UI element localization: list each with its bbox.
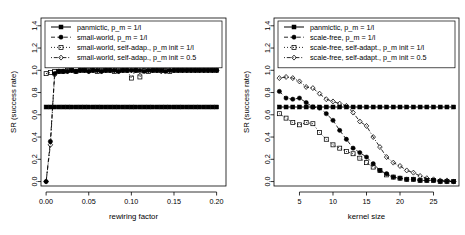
x-axis: 0.000.050.100.150.20rewiring factor <box>39 192 224 221</box>
y-axis-title: SR (success rate) <box>9 71 18 133</box>
y-axis-tick-label: 1.4 <box>264 21 273 31</box>
data-point-marker <box>277 105 281 109</box>
legend-label: small-world, self-adap., p_m init = 1/l <box>77 43 194 52</box>
data-point-marker <box>185 105 189 109</box>
data-point-marker <box>351 146 355 150</box>
data-point-marker <box>57 105 61 109</box>
y-axis-tick-label: 0.8 <box>31 88 40 98</box>
chart-svg: 0.00.20.40.60.81.01.21.4SR (success rate… <box>233 0 465 235</box>
series-1 <box>277 89 456 183</box>
data-point-marker <box>117 105 121 109</box>
y-axis-tick-label: 0.6 <box>31 110 40 120</box>
data-point-marker <box>398 105 402 109</box>
data-point-marker <box>129 105 133 109</box>
data-point-marker <box>125 105 129 109</box>
data-point-marker <box>317 106 321 110</box>
data-point-marker <box>365 105 369 109</box>
legend-label: small-world, self-adap., p_m init = 0.5 <box>77 53 196 62</box>
x-axis: 510152025kernel size <box>297 192 437 221</box>
data-point-marker <box>398 163 403 168</box>
series-line <box>46 70 217 181</box>
x-axis-tick-label: 25 <box>430 197 438 206</box>
y-axis: 0.00.20.40.60.81.01.21.4SR (success rate… <box>9 21 42 187</box>
data-point-marker <box>44 72 48 76</box>
x-axis-tick-label: 20 <box>396 197 404 206</box>
x-axis-tick-label: 5 <box>297 197 301 206</box>
data-point-marker <box>87 105 91 109</box>
y-axis-title: SR (success rate) <box>242 71 251 133</box>
data-point-marker <box>48 105 52 109</box>
data-point-marker <box>297 105 301 109</box>
data-point-marker <box>331 105 335 109</box>
data-point-marker <box>311 122 315 126</box>
y-axis-tick-label: 0.4 <box>31 132 40 142</box>
data-point-marker <box>193 105 197 109</box>
data-point-marker <box>108 105 112 109</box>
data-point-marker <box>358 105 362 109</box>
data-point-marker <box>364 155 368 159</box>
y-axis-tick-label: 0.2 <box>264 154 273 164</box>
data-point-marker <box>59 35 63 39</box>
data-point-marker <box>338 146 342 150</box>
x-axis-tick-label: 0.15 <box>167 197 181 206</box>
data-point-marker <box>432 105 436 109</box>
data-point-marker <box>404 168 409 173</box>
x-axis-title: kernel size <box>348 212 385 221</box>
legend-label: small-world, p_m = 1/l <box>77 33 148 42</box>
data-point-marker <box>100 105 104 109</box>
data-point-marker <box>291 105 295 109</box>
x-axis-tick-label: 0.00 <box>39 197 53 206</box>
legend-label: panmictic, p_m = 1/l <box>77 23 142 32</box>
data-point-marker <box>418 173 423 178</box>
data-point-marker <box>411 105 415 109</box>
legend: panmictic, p_m = 1/lscale-free, p_m = 1/… <box>278 21 455 68</box>
data-point-marker <box>104 105 108 109</box>
data-point-marker <box>44 105 48 109</box>
data-point-marker <box>357 119 362 124</box>
x-axis-title: rewiring factor <box>109 212 158 221</box>
data-point-marker <box>151 105 155 109</box>
data-point-marker <box>168 105 172 109</box>
series-1 <box>44 68 219 184</box>
data-point-marker <box>425 105 429 109</box>
data-point-marker <box>338 105 342 109</box>
y-axis-tick-label: 0.0 <box>31 177 40 187</box>
data-point-marker <box>78 105 82 109</box>
data-point-marker <box>70 105 74 109</box>
data-point-marker <box>284 105 288 109</box>
legend: panmictic, p_m = 1/lsmall-world, p_m = 1… <box>45 21 222 68</box>
data-point-marker <box>82 105 86 109</box>
y-axis-tick-label: 0.8 <box>264 88 273 98</box>
chart-panel-scale-free: 0.00.20.40.60.81.01.21.4SR (success rate… <box>233 0 465 235</box>
data-point-marker <box>142 105 146 109</box>
data-point-marker <box>297 123 301 127</box>
data-point-marker <box>405 105 409 109</box>
data-point-marker <box>304 105 308 109</box>
x-axis-tick-label: 0.10 <box>124 197 138 206</box>
data-point-marker <box>146 105 150 109</box>
data-point-marker <box>358 150 362 154</box>
y-axis-tick-label: 0.0 <box>264 177 273 187</box>
data-point-marker <box>292 35 296 39</box>
y-axis-tick-label: 0.6 <box>264 110 273 120</box>
y-axis-tick-label: 1.4 <box>31 21 40 31</box>
data-point-marker <box>95 105 99 109</box>
data-point-marker <box>284 96 288 100</box>
series-2 <box>277 112 455 184</box>
chart-panel-small-world: 0.00.20.40.60.81.01.21.4SR (success rate… <box>0 0 232 235</box>
data-point-marker <box>452 105 456 109</box>
data-point-marker <box>59 25 63 29</box>
data-point-marker <box>311 105 315 109</box>
series-0 <box>44 105 219 109</box>
x-axis-tick-label: 0.05 <box>82 197 96 206</box>
data-point-marker <box>277 89 281 93</box>
y-axis-tick-label: 1.0 <box>31 65 40 75</box>
data-point-marker <box>291 121 295 125</box>
data-point-marker <box>163 105 167 109</box>
data-point-marker <box>134 105 138 109</box>
legend-label: scale-free, p_m = 1/l <box>310 33 376 42</box>
legend-label: scale-free, self-adapt., p_m init = 1/l <box>310 43 424 52</box>
data-point-marker <box>159 105 163 109</box>
series-3 <box>44 68 219 184</box>
data-point-marker <box>112 105 116 109</box>
